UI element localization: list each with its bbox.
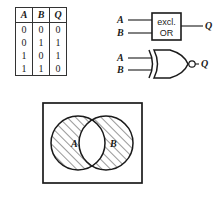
block-input-a-label: A [117,15,124,25]
inversion-bubble-icon [189,61,195,67]
block-output-label: Q [205,21,212,31]
gate-output-label: Q [201,59,208,69]
xor-figure: A B Q 0 0 0 0 1 1 1 0 1 1 1 [0,0,214,197]
xor-venn-diagram [43,103,142,183]
column-header-q: Q [50,8,67,23]
table-row: 1 1 0 [16,62,67,76]
venn-label-b: B [110,139,117,149]
gate-input-a-label: A [117,53,124,63]
excl-or-box-line1: excl. [152,17,181,27]
xor-gate-symbol [128,50,199,78]
column-header-b: B [33,8,50,23]
cell-q: 0 [50,62,67,76]
table-row: 0 1 1 [16,36,67,49]
cell-b: 0 [33,49,50,62]
table-row: 1 0 1 [16,49,67,62]
cell-a: 0 [16,23,33,37]
or-gate-body [154,50,188,78]
excl-or-box-line2: OR [152,28,181,38]
xor-truth-table: A B Q 0 0 0 0 1 1 1 0 1 1 1 [15,7,67,76]
cell-b: 1 [33,36,50,49]
cell-q: 1 [50,49,67,62]
xor-extra-arc [149,50,153,78]
table-row: 0 0 0 [16,23,67,37]
cell-a: 1 [16,49,33,62]
cell-a: 0 [16,36,33,49]
column-header-a: A [16,8,33,23]
cell-b: 1 [33,62,50,76]
cell-a: 1 [16,62,33,76]
gate-input-b-label: B [117,65,124,75]
cell-b: 0 [33,23,50,37]
table-header-row: A B Q [16,8,67,23]
venn-label-a: A [71,139,78,149]
cell-q: 1 [50,36,67,49]
cell-q: 0 [50,23,67,37]
block-input-b-label: B [117,28,124,38]
